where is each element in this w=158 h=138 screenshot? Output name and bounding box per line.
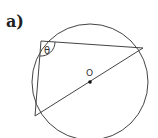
center-point <box>88 80 92 84</box>
circle-diagram: O θ <box>0 0 158 138</box>
angle-label: θ <box>44 45 50 56</box>
center-label: O <box>86 68 93 78</box>
